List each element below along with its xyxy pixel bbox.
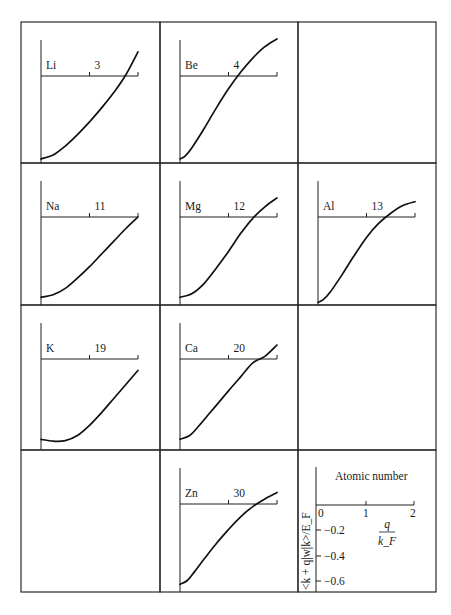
element-label: Zn [185, 487, 198, 499]
element-label: Al [323, 200, 335, 212]
panel-na: Na11 [41, 181, 138, 305]
atomic-number-label: 11 [95, 200, 106, 212]
panel-zn: Zn30 [180, 468, 277, 592]
pseudopotential-curve [41, 371, 138, 442]
panel-mg: Mg12 [180, 181, 277, 305]
panel-cell [21, 450, 160, 592]
key-ytick-label-06: −0.6 [324, 575, 345, 587]
atomic-number-label: 3 [95, 59, 101, 71]
pseudopotential-curve [180, 39, 277, 159]
panel-cell [21, 305, 160, 450]
panel-al: Al13 [318, 181, 415, 305]
key-xlabel-denominator: k_F [378, 535, 397, 547]
panel-cell [21, 163, 160, 305]
panel-cell [160, 22, 298, 163]
element-label: Be [185, 59, 198, 71]
key-ytick-label-04: −0.4 [324, 550, 345, 562]
atomic-number-label: 4 [234, 59, 240, 71]
panels: Li3Be4Na11Mg12Al13K19Ca20Zn30 [41, 39, 415, 592]
panel-cell [298, 163, 436, 305]
pseudopotential-curve [41, 217, 138, 297]
element-label: K [46, 342, 55, 354]
key-panel: Atomic number 0 1 2 −0.2 −0.4 −0.6 q k_F… [300, 467, 416, 592]
key-title: Atomic number [335, 470, 408, 482]
panel-be: Be4 [180, 39, 277, 163]
panel-li: Li3 [41, 40, 138, 163]
key-xlabel-numerator: q [384, 518, 390, 531]
atomic-number-label: 19 [95, 342, 107, 354]
panel-cell [160, 450, 298, 592]
atomic-number-label: 30 [234, 487, 246, 499]
panel-ca: Ca20 [180, 323, 277, 450]
element-label: Li [46, 59, 56, 71]
atomic-number-label: 12 [234, 200, 246, 212]
element-label: Mg [185, 200, 201, 213]
key-xtick-label-0: 0 [318, 507, 324, 519]
figure: Li3Be4Na11Mg12Al13K19Ca20Zn30 Atomic num… [0, 0, 451, 615]
panel-cell [298, 305, 436, 450]
panel-k: K19 [41, 323, 138, 450]
panel-cell [160, 305, 298, 450]
pseudopotential-curve [180, 198, 277, 297]
key-xtick-label-2: 2 [410, 507, 416, 519]
panel-cell [160, 163, 298, 305]
key-xtick-label-1: 1 [363, 507, 369, 519]
element-label: Na [46, 200, 59, 212]
panel-cell [298, 22, 436, 163]
atomic-number-label: 20 [234, 342, 246, 354]
pseudopotential-curve [180, 493, 277, 585]
panel-cell [21, 22, 160, 163]
key-ytick-label-02: −0.2 [324, 524, 345, 536]
panel-grid [21, 22, 436, 592]
atomic-number-label: 13 [372, 200, 384, 212]
key-ylabel: <k + q|w|k>/E_F [300, 512, 313, 590]
element-label: Ca [185, 342, 198, 354]
